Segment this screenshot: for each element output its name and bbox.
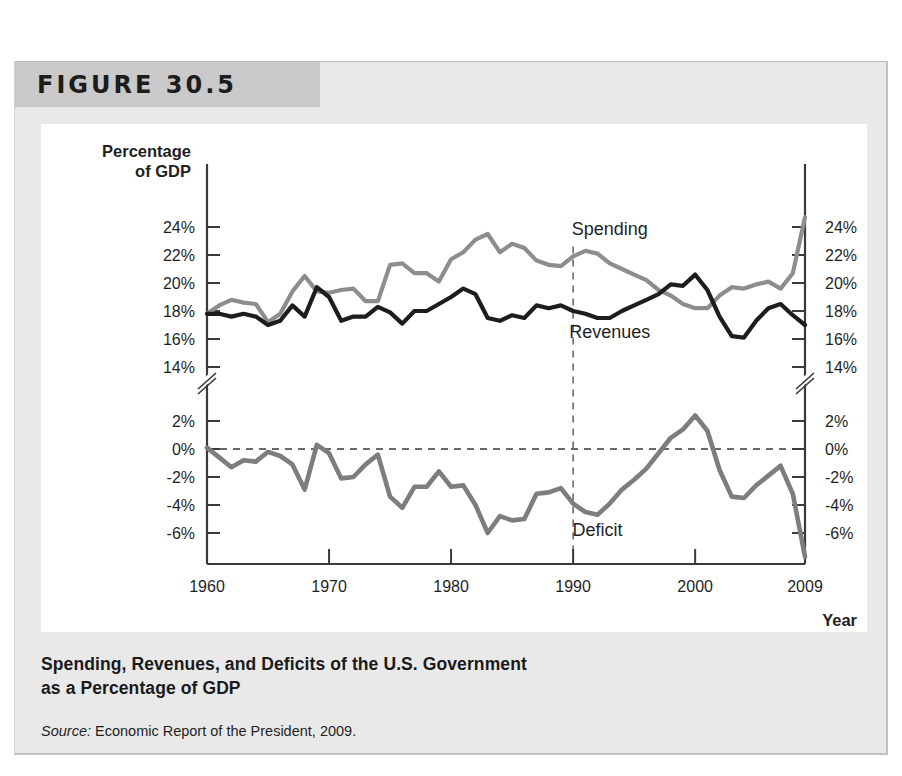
ytick-label-upper-left: 14% (163, 359, 195, 376)
figure-number-label: FIGURE 30.5 (15, 71, 237, 99)
ytick-label-lower-left: 2% (172, 413, 195, 430)
series-label-revenues: Revenues (569, 322, 650, 342)
figure-banner: FIGURE 30.5 (15, 62, 320, 107)
y-axis-title-line-1: Percentage (102, 142, 191, 160)
xtick-label-1990: 1990 (555, 578, 591, 595)
series-line-deficit (207, 415, 805, 556)
ytick-label-lower-left: -6% (167, 525, 195, 542)
xtick-label-2009: 2009 (787, 578, 823, 595)
ytick-label-lower-right: -4% (825, 497, 853, 514)
series-label-deficit: Deficit (573, 520, 623, 540)
gdp-percentage-chart: 14%14%16%16%18%18%20%20%22%22%24%24%-6%-… (41, 124, 867, 632)
ytick-label-upper-left: 16% (163, 331, 195, 348)
ytick-label-lower-left: -4% (167, 497, 195, 514)
caption-block: Spending, Revenues, and Deficits of the … (41, 652, 861, 739)
figure-caption: Spending, Revenues, and Deficits of the … (41, 652, 861, 700)
figure-page: FIGURE 30.5 14%14%16%16%18%18%20%20%22%2… (0, 0, 902, 776)
y-axis-title-line-2: of GDP (135, 162, 191, 180)
ytick-label-upper-right: 16% (825, 331, 857, 348)
ytick-label-upper-left: 20% (163, 275, 195, 292)
xtick-label-1970: 1970 (311, 578, 347, 595)
ytick-label-upper-right: 18% (825, 303, 857, 320)
x-axis-title: Year (822, 611, 857, 629)
ytick-label-lower-right: 2% (825, 413, 848, 430)
caption-line-1: Spending, Revenues, and Deficits of the … (41, 652, 861, 676)
ytick-label-upper-left: 18% (163, 303, 195, 320)
ytick-label-lower-left: -2% (167, 469, 195, 486)
chart-card: 14%14%16%16%18%18%20%20%22%22%24%24%-6%-… (41, 124, 867, 632)
ytick-label-upper-right: 20% (825, 275, 857, 292)
figure-panel: FIGURE 30.5 14%14%16%16%18%18%20%20%22%2… (14, 61, 888, 755)
ytick-label-upper-left: 24% (163, 219, 195, 236)
ytick-label-upper-right: 24% (825, 219, 857, 236)
ytick-label-lower-right: -2% (825, 469, 853, 486)
ytick-label-upper-right: 22% (825, 247, 857, 264)
caption-line-2: as a Percentage of GDP (41, 676, 861, 700)
source-text: Economic Report of the President, 2009. (91, 723, 356, 739)
ytick-label-lower-right: 0% (825, 441, 848, 458)
ytick-label-upper-right: 14% (825, 359, 857, 376)
xtick-label-2000: 2000 (677, 578, 713, 595)
source-line: Source: Economic Report of the President… (41, 723, 861, 739)
xtick-label-1980: 1980 (433, 578, 469, 595)
ytick-label-upper-left: 22% (163, 247, 195, 264)
ytick-label-lower-left: 0% (172, 441, 195, 458)
series-label-spending: Spending (572, 219, 648, 239)
source-label: Source: (41, 723, 91, 739)
xtick-label-1960: 1960 (189, 578, 225, 595)
ytick-label-lower-right: -6% (825, 525, 853, 542)
